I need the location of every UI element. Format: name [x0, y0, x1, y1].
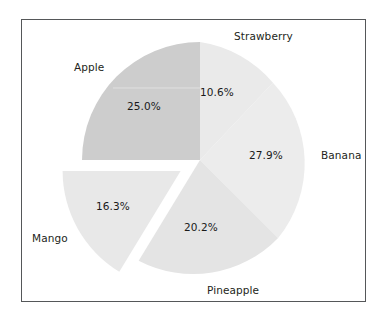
pie-label-mango: Mango	[32, 232, 68, 244]
pie-chart-figure: Strawberry Apple Banana Mango Pineapple …	[0, 0, 384, 321]
pie-value-strawberry: 10.6%	[200, 86, 234, 98]
pie-label-pineapple: Pineapple	[207, 284, 259, 296]
pie-label-apple: Apple	[74, 61, 104, 73]
pie-label-strawberry: Strawberry	[234, 30, 293, 42]
pie-value-banana: 27.9%	[249, 149, 283, 161]
pie-value-pineapple: 20.2%	[184, 221, 218, 233]
pie-value-mango: 16.3%	[96, 200, 130, 212]
pie-value-apple: 25.0%	[127, 100, 161, 112]
pie-label-banana: Banana	[321, 149, 361, 161]
